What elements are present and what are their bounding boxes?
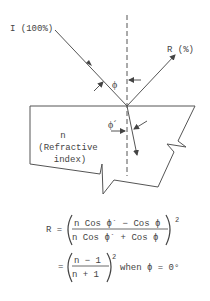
medium-label-index: index) [54, 155, 86, 165]
formula1-exponent: 2 [175, 216, 179, 224]
phi-prime-label: ϕ´ [108, 119, 117, 130]
incident-ray [55, 30, 127, 106]
reflected-label: R (%) [167, 45, 194, 55]
medium-label-n: n [60, 131, 65, 141]
medium-label-refractive: (Refractive [38, 143, 97, 153]
formula-lhs: R = [46, 225, 62, 235]
formula1-denominator: n Cos ϕ´ + Cos ϕ [72, 233, 158, 243]
formula2-lhs: = [58, 262, 63, 272]
formula2-condition: when ϕ = 0° [120, 263, 179, 273]
formula2-numerator: n − 1 [74, 256, 101, 266]
formula1-numerator: n Cos ϕ´ − Cos ϕ [74, 219, 160, 229]
phi-arrow-left [94, 82, 103, 91]
phi-label: ϕ [112, 79, 117, 90]
formula2-right-paren [107, 253, 111, 282]
formula2-denominator: n + 1 [72, 270, 99, 280]
incident-label: I (100%) [10, 24, 53, 34]
formula2-exponent: 2 [112, 253, 116, 261]
refracted-ray [127, 106, 137, 155]
incident-arrow-icon [86, 60, 92, 66]
phi-prime-arrow-right [134, 121, 147, 129]
reflection-diagram: I (100%) R (%) ϕ ϕ´ n (Refractive index)… [0, 0, 210, 301]
formula1-right-paren [166, 215, 170, 245]
